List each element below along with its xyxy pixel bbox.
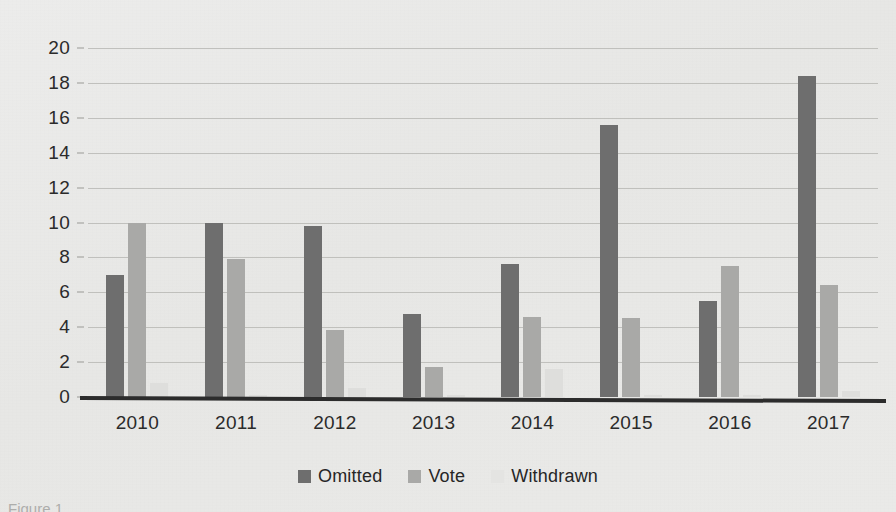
bar-group-2010 — [88, 48, 187, 397]
bar-group-2017 — [779, 48, 878, 397]
x-tick-label-2015: 2015 — [609, 412, 652, 434]
bar-withdrawn-2014[interactable] — [545, 369, 563, 397]
bar-omitted-2014[interactable] — [501, 264, 519, 397]
bar-omitted-2017[interactable] — [798, 76, 816, 397]
bar-group-2014 — [483, 48, 582, 397]
bar-omitted-2013[interactable] — [403, 314, 421, 397]
bar-withdrawn-2017[interactable] — [842, 391, 860, 397]
y-tick-label-8: 8 — [59, 246, 70, 268]
y-tick-mark-8 — [77, 257, 84, 258]
x-tick-label-2010: 2010 — [116, 412, 159, 434]
bars-layer — [88, 48, 878, 397]
bar-group-2012 — [286, 48, 385, 397]
y-tick-mark-20 — [77, 48, 84, 49]
bar-omitted-2016[interactable] — [699, 301, 717, 397]
caption-fragment: Figure 1. — [8, 500, 67, 512]
legend-swatch-vote-icon — [408, 470, 421, 483]
bar-vote-2011[interactable] — [227, 259, 245, 397]
y-tick-label-18: 18 — [48, 72, 70, 94]
bar-vote-2017[interactable] — [820, 285, 838, 397]
x-tick-label-2016: 2016 — [708, 412, 751, 434]
legend-item-vote[interactable]: Vote — [408, 466, 465, 487]
x-tick-label-2012: 2012 — [313, 412, 356, 434]
bar-withdrawn-2012[interactable] — [348, 388, 366, 397]
x-axis-baseline — [80, 396, 886, 403]
y-tick-label-12: 12 — [48, 177, 70, 199]
legend-item-withdrawn[interactable]: Withdrawn — [491, 466, 598, 487]
bar-omitted-2010[interactable] — [106, 275, 124, 397]
bar-group-2011 — [187, 48, 286, 397]
x-tick-label-2014: 2014 — [511, 412, 554, 434]
bar-withdrawn-2015[interactable] — [644, 395, 662, 397]
y-tick-label-4: 4 — [59, 316, 70, 338]
legend-swatch-omitted-icon — [298, 470, 311, 483]
y-tick-label-20: 20 — [48, 37, 70, 59]
y-axis: 02468101214161820 — [0, 0, 84, 512]
bar-group-2013 — [384, 48, 483, 397]
x-tick-label-2017: 2017 — [807, 412, 850, 434]
legend-label-withdrawn: Withdrawn — [511, 466, 598, 487]
bar-withdrawn-2010[interactable] — [150, 383, 168, 397]
y-tick-label-14: 14 — [48, 142, 70, 164]
x-tick-label-2013: 2013 — [412, 412, 455, 434]
bar-withdrawn-2016[interactable] — [743, 395, 761, 397]
bar-vote-2010[interactable] — [128, 223, 146, 398]
bar-vote-2015[interactable] — [622, 318, 640, 397]
y-tick-label-2: 2 — [59, 351, 70, 373]
x-axis: 20102011201220132014201520162017 — [88, 406, 878, 446]
bar-group-2016 — [681, 48, 780, 397]
y-tick-mark-6 — [77, 292, 84, 293]
bar-omitted-2012[interactable] — [304, 226, 322, 397]
bar-vote-2016[interactable] — [721, 266, 739, 397]
y-tick-mark-10 — [77, 222, 84, 223]
y-tick-mark-12 — [77, 187, 84, 188]
x-tick-label-2011: 2011 — [215, 412, 257, 434]
bar-vote-2013[interactable] — [425, 367, 443, 397]
chart-legend: OmittedVoteWithdrawn — [0, 466, 896, 487]
y-tick-mark-16 — [77, 117, 84, 118]
y-tick-label-0: 0 — [59, 386, 70, 408]
bar-chart: 02468101214161820 2010201120122013201420… — [0, 0, 896, 512]
y-tick-mark-2 — [77, 362, 84, 363]
legend-label-vote: Vote — [428, 466, 465, 487]
bar-vote-2014[interactable] — [523, 317, 541, 397]
bar-omitted-2015[interactable] — [600, 125, 618, 397]
legend-swatch-withdrawn-icon — [491, 470, 504, 483]
y-tick-mark-4 — [77, 327, 84, 328]
bar-group-2015 — [582, 48, 681, 397]
y-tick-label-6: 6 — [59, 281, 70, 303]
y-tick-mark-18 — [77, 82, 84, 83]
y-tick-label-10: 10 — [48, 212, 70, 234]
y-tick-mark-14 — [77, 152, 84, 153]
legend-label-omitted: Omitted — [318, 466, 382, 487]
legend-item-omitted[interactable]: Omitted — [298, 466, 382, 487]
bar-omitted-2011[interactable] — [205, 223, 223, 398]
bar-vote-2012[interactable] — [326, 330, 344, 397]
y-tick-label-16: 16 — [48, 107, 70, 129]
